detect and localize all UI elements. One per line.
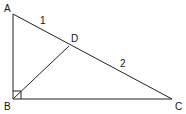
- vertex-label-d: D: [71, 33, 78, 44]
- vertex-label-a: A: [4, 3, 11, 14]
- triangle-diagram: A B C D 1 2: [0, 0, 186, 114]
- vertex-label-b: B: [4, 101, 11, 112]
- segment-label-ad: 1: [40, 15, 46, 26]
- segment-ac: [13, 14, 172, 99]
- vertex-label-c: C: [175, 101, 182, 112]
- segment-label-dc: 2: [120, 58, 126, 69]
- diagram-canvas: A B C D 1 2: [0, 0, 186, 114]
